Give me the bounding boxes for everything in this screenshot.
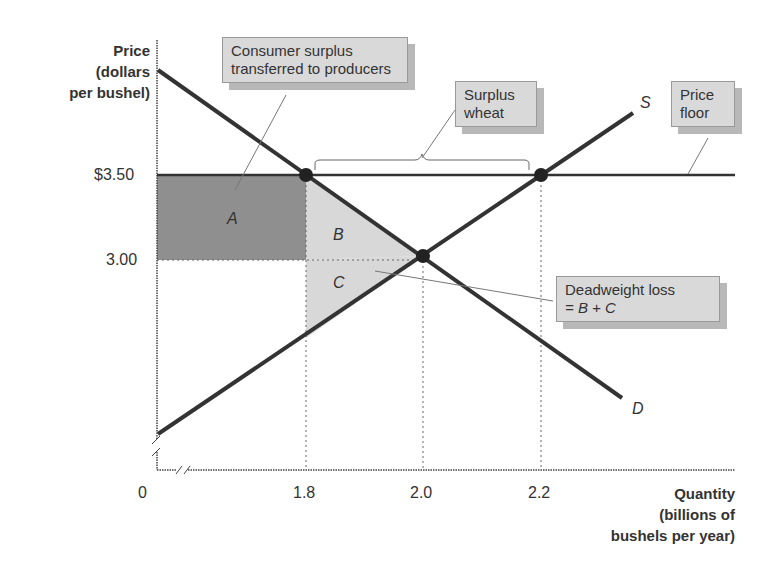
callout-text: Deadweight loss [565, 281, 711, 299]
y-axis-break-icon [152, 448, 160, 456]
y-axis-break-icon [152, 436, 160, 444]
y-title-line: Price [60, 40, 150, 61]
callout-surplus-wheat: Surplus wheat [455, 81, 537, 127]
supply-label: S [640, 94, 651, 112]
supply-curve [158, 113, 633, 434]
callout-text: = B + C [565, 299, 711, 317]
x-tick-2-2: 2.2 [528, 484, 550, 502]
region-a-label: A [227, 210, 238, 228]
demand-label: D [632, 400, 644, 418]
x-axis-title: Quantity (billions of bushels per year) [580, 483, 735, 546]
callout-text: Price [680, 86, 726, 104]
leader-surplus-wheat [422, 110, 455, 158]
callout-text: Consumer surplus [231, 42, 399, 60]
leader-price-floor [688, 138, 708, 174]
y-axis-title: Price (dollars per bushel) [60, 40, 150, 103]
surplus-brace [315, 154, 529, 170]
x-title-line: bushels per year) [580, 525, 735, 546]
callout-text: transferred to producers [231, 60, 399, 78]
point-equilibrium [416, 249, 430, 263]
y-tick-300: 3.00 [106, 251, 137, 269]
x-tick-0: 0 [138, 484, 147, 502]
point-quantity-demanded [299, 168, 313, 182]
y-tick-350: $3.50 [94, 166, 134, 184]
callout-price-floor: Price floor [671, 81, 735, 127]
callout-deadweight-loss: Deadweight loss = B + C [556, 276, 720, 322]
callout-consumer-surplus: Consumer surplus transferred to producer… [222, 37, 408, 83]
x-tick-1-8: 1.8 [293, 484, 315, 502]
y-title-line: (dollars [60, 61, 150, 82]
callout-text: floor [680, 104, 726, 122]
callout-text: Surplus [464, 86, 528, 104]
x-tick-2-0: 2.0 [410, 484, 432, 502]
x-title-line: Quantity [580, 483, 735, 504]
point-quantity-supplied [534, 168, 548, 182]
leader-deadweight [375, 271, 553, 301]
x-title-line: (billions of [580, 504, 735, 525]
x-axis-break-icon [176, 466, 182, 474]
callout-text: wheat [464, 104, 528, 122]
region-b-label: B [333, 226, 344, 244]
y-title-line: per bushel) [60, 82, 150, 103]
region-c-label: C [333, 274, 345, 292]
